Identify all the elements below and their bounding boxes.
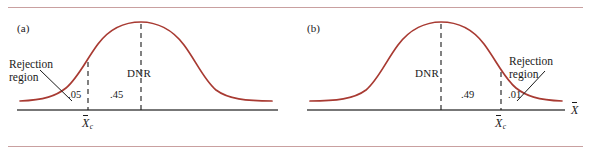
panel-b-axis-label: X (571, 103, 578, 118)
panel-a-rejection-label-line1: Rejection (9, 58, 53, 71)
panel-b-critical-value-subscript: c (503, 122, 506, 131)
panel-b-critical-value-symbol: X (495, 116, 502, 131)
panel-a-critical-value-label: Xc (82, 116, 93, 131)
panel-a: (a) Rejection region .05 .45 DNR Xc (0, 0, 296, 156)
panel-a-area-05: .05 (68, 89, 81, 101)
panel-b-plot (295, 0, 591, 156)
panel-b-area-49: .49 (461, 89, 474, 101)
panel-a-critical-value-symbol: X (82, 116, 89, 131)
panel-b-tag: (b) (307, 22, 320, 34)
panel-b-axis-label-symbol: X (571, 103, 578, 118)
panel-a-tag: (a) (17, 22, 30, 34)
panel-b-area-01: .01 (508, 89, 521, 101)
panel-b-rejection-label-line1: Rejection (509, 55, 553, 68)
panel-a-critical-value-subscript: c (90, 122, 93, 131)
panel-b-rejection-label-line2: region (509, 68, 538, 81)
panel-a-rejection-label-line2: region (9, 71, 38, 84)
panel-a-curve (20, 22, 272, 101)
panel-b-dnr-label: DNR (415, 67, 439, 79)
figure-container: (a) Rejection region .05 .45 DNR Xc (b) … (0, 0, 591, 156)
panel-b-critical-value-label: Xc (495, 116, 506, 131)
panel-a-dnr-label: DNR (127, 67, 151, 79)
panel-a-area-45: .45 (110, 89, 123, 101)
panel-b: (b) DNR .49 .01 Rejection region Xc X (295, 0, 591, 156)
